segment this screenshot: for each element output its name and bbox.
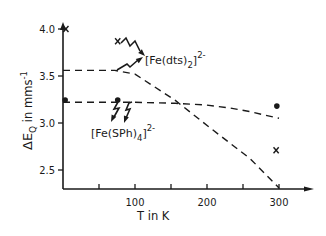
axes: 1002003004.03.53.02.5 — [39, 22, 314, 209]
y-tick-label: 3.0 — [39, 117, 55, 130]
annotation-fe-sph: [Fe(SPh)4]2- — [91, 123, 155, 143]
zigzag-arrow-icon — [117, 60, 138, 70]
arrowhead-icon — [124, 116, 129, 123]
annotation-fe-dts-main: [Fe(dts) — [145, 54, 187, 67]
arrowhead-icon — [136, 57, 143, 63]
series-line-fe-sph — [63, 102, 279, 118]
data-point-dot — [62, 97, 68, 103]
annotation-fe-sph-sup: 2- — [147, 123, 155, 133]
y-axis-title-sub: Q — [28, 126, 38, 133]
annotation-fe-sph-main: [Fe(SPh) — [91, 127, 137, 140]
x-tick-label: 200 — [198, 196, 217, 209]
y-axis-title-rest: in mms — [21, 80, 35, 126]
y-axis-title-delta: ΔE — [20, 133, 35, 150]
data-point-x — [115, 38, 120, 44]
data-point-dot — [274, 103, 280, 109]
x-tick-label: 100 — [126, 196, 145, 209]
chart: 1002003004.03.53.02.5 T in K ΔEQ in mms-… — [0, 0, 326, 236]
annotation-fe-dts: [Fe(dts)2]2- — [145, 50, 206, 70]
annotation-arrows — [111, 38, 145, 123]
zigzag-arrow-icon — [121, 38, 140, 51]
y-axis-title: ΔEQ in mms-1 — [19, 71, 38, 150]
x-axis-arrow — [304, 187, 314, 192]
y-tick-label: 4.0 — [39, 23, 55, 36]
y-tick-label: 2.5 — [39, 164, 55, 177]
x-axis-title: T in K — [136, 209, 170, 223]
annotation-fe-dts-sup: 2- — [197, 50, 205, 60]
zigzag-arrow-icon — [114, 102, 119, 117]
zigzag-arrow-icon — [126, 102, 132, 118]
x-tick-label: 300 — [270, 196, 289, 209]
data-point-x — [274, 147, 279, 153]
y-axis-title-sup: -1 — [19, 71, 29, 79]
y-tick-label: 3.5 — [39, 70, 55, 83]
